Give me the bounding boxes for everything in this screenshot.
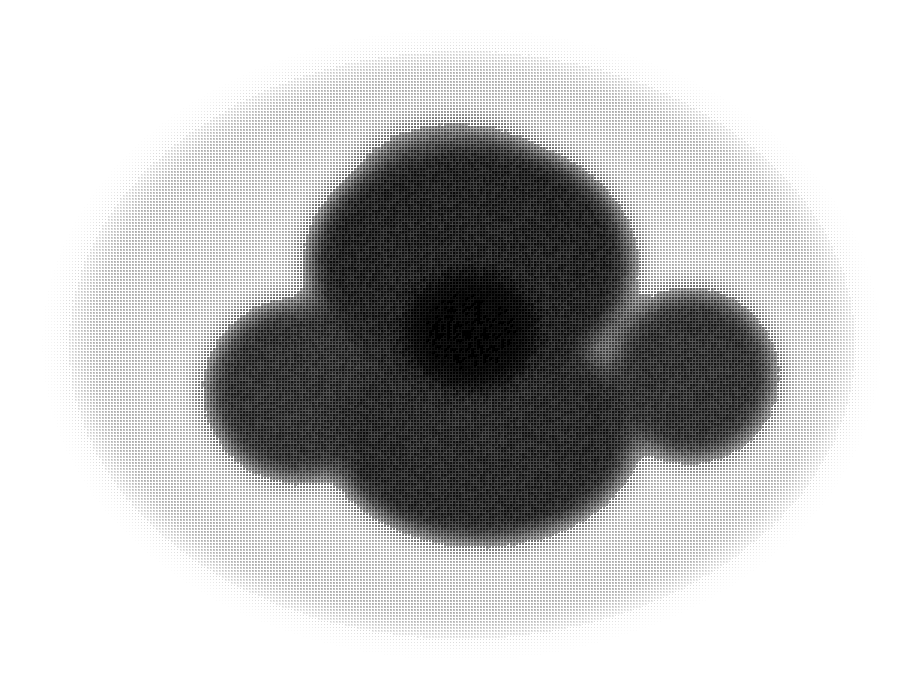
halftone-scan-image <box>0 0 918 693</box>
scan-viewport <box>0 0 918 693</box>
